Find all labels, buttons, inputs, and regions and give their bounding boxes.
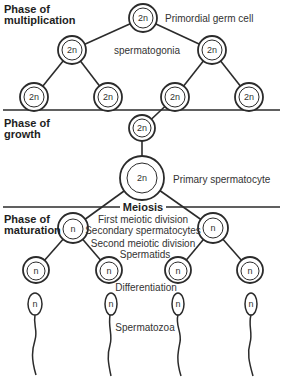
ploidy-label: n [175, 266, 180, 276]
secondary-spermatocytes-label: Secondary spermatocytes [85, 225, 201, 236]
ploidy-label: 2n [29, 92, 39, 102]
ploidy-label: 2n [244, 92, 254, 102]
ploidy-label: n [247, 266, 252, 276]
phase-maturation-label: Phase of maturation [4, 214, 61, 236]
ploidy-label: 2n [138, 13, 148, 23]
meiosis-label: Meiosis [121, 202, 165, 213]
primordial-germ-cell-label: Primordial germ cell [165, 13, 253, 24]
phase-label-line: multiplication [4, 15, 76, 26]
first-meiotic-division-label: First meiotic division [98, 214, 188, 225]
ploidy-label: n [108, 299, 113, 309]
ploidy-label: n [32, 299, 37, 309]
ploidy-label: n [70, 224, 75, 234]
phase-label-line: growth [4, 129, 50, 140]
ploidy-label: 2n [170, 92, 180, 102]
ploidy-label: 2n [103, 92, 113, 102]
primary-spermatocyte-label: Primary spermatocyte [173, 174, 270, 185]
differentiation-label: Differentiation [115, 282, 177, 293]
spermatogonia-label: spermatogonia [114, 45, 180, 56]
ploidy-label: 2n [67, 45, 77, 55]
spermatids-label: Spermatids [120, 249, 171, 260]
phase-label-line: maturation [4, 225, 61, 236]
spermatogenesis-diagram: 2n 2n 2n 2n 2n 2n 2n 2n 2n n n n n n n n… [0, 0, 284, 386]
ploidy-label: n [248, 299, 253, 309]
ploidy-label: 2n [137, 173, 147, 183]
spermatozoa-label: Spermatozoa [115, 322, 174, 333]
phase-multiplication-label: Phase of multiplication [4, 4, 76, 26]
ploidy-label: n [33, 266, 38, 276]
phase-growth-label: Phase of growth [4, 118, 50, 140]
ploidy-label: n [210, 223, 215, 233]
ploidy-label: n [106, 266, 111, 276]
ploidy-label: 2n [207, 45, 217, 55]
second-meiotic-division-label: Second meiotic division [91, 238, 196, 249]
ploidy-label: n [175, 299, 180, 309]
ploidy-label: 2n [137, 123, 147, 133]
